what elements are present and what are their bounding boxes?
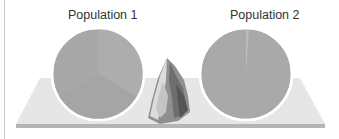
pie-title-population-2: Population 2 [230, 8, 300, 22]
platform-edge [16, 124, 325, 128]
pie-chart-population-1 [52, 28, 144, 120]
pie-title-population-1: Population 1 [68, 8, 138, 22]
pie-chart-population-2 [200, 28, 292, 120]
